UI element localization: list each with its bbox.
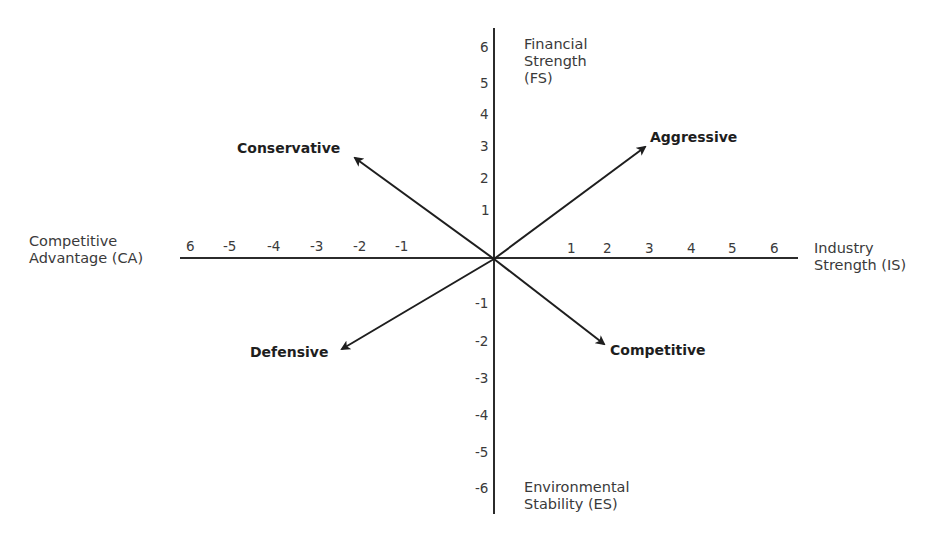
axis-title-line: Industry — [814, 240, 906, 257]
axis-title-financial-strength: Financial Strength (FS) — [524, 36, 588, 87]
x-tick: 3 — [645, 240, 654, 256]
conservative-arrow — [355, 158, 494, 259]
x-tick: -5 — [223, 238, 236, 254]
y-tick: -2 — [475, 333, 488, 349]
y-tick: 6 — [480, 39, 489, 55]
strategy-label-defensive: Defensive — [250, 344, 328, 361]
y-tick: -1 — [475, 295, 488, 311]
y-tick: 2 — [480, 170, 489, 186]
axis-title-competitive-advantage: Competitive Advantage (CA) — [29, 233, 143, 267]
axis-title-industry-strength: Industry Strength (IS) — [814, 240, 906, 274]
x-tick: 1 — [567, 240, 576, 256]
axis-title-line: Strength (IS) — [814, 257, 906, 274]
y-tick: -3 — [475, 370, 488, 386]
axis-title-line: Financial — [524, 36, 588, 53]
axis-title-line: Stability (ES) — [524, 496, 630, 513]
strategy-label-aggressive: Aggressive — [650, 129, 737, 146]
x-tick: 5 — [728, 240, 737, 256]
diagram-canvas — [0, 0, 936, 540]
competitive-arrow — [494, 259, 604, 344]
y-tick: -4 — [475, 407, 488, 423]
axis-title-line: (FS) — [524, 70, 588, 87]
x-tick: 6 — [770, 240, 779, 256]
axis-title-environmental-stability: Environmental Stability (ES) — [524, 479, 630, 513]
y-tick: -5 — [475, 444, 488, 460]
y-tick: 4 — [480, 106, 489, 122]
x-tick: -1 — [395, 238, 408, 254]
axis-title-line: Strength — [524, 53, 588, 70]
x-tick: -4 — [267, 238, 280, 254]
x-tick: -3 — [310, 238, 323, 254]
axis-title-line: Competitive — [29, 233, 143, 250]
space-matrix-diagram: Financial Strength (FS) Environmental St… — [0, 0, 936, 540]
x-tick: 2 — [603, 240, 612, 256]
y-tick: -6 — [475, 480, 488, 496]
y-tick: 5 — [480, 75, 489, 91]
defensive-arrow — [342, 259, 494, 349]
strategy-label-competitive: Competitive — [610, 342, 706, 359]
y-tick: 3 — [480, 138, 489, 154]
strategy-label-conservative: Conservative — [237, 140, 340, 157]
x-tick: 6 — [186, 238, 195, 254]
axis-title-line: Environmental — [524, 479, 630, 496]
y-tick: 1 — [481, 202, 490, 218]
axis-title-line: Advantage (CA) — [29, 250, 143, 267]
x-tick: -2 — [353, 238, 366, 254]
x-tick: 4 — [687, 240, 696, 256]
